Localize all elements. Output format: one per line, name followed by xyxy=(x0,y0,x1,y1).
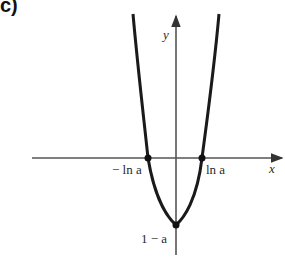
y-axis-label: y xyxy=(163,28,169,41)
x-axis-label: x xyxy=(269,162,275,175)
root-point-positive xyxy=(199,155,206,162)
y-intercept-label: 1 − a xyxy=(141,232,167,245)
pos-root-label: ln a xyxy=(206,163,225,176)
root-point-negative xyxy=(145,155,152,162)
graph-canvas xyxy=(0,0,285,259)
vertex-point xyxy=(173,222,180,229)
neg-root-label: − ln a xyxy=(112,163,142,176)
